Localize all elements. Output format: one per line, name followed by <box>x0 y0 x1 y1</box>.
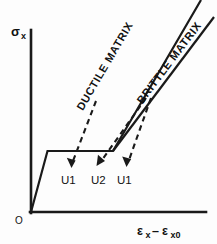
origin-label: O <box>15 215 23 226</box>
unload-arrow-brittle-right-head <box>122 157 131 167</box>
ductile-matrix-curve <box>31 0 201 212</box>
unload-label-u1-ductile: U1 <box>61 174 76 186</box>
figure-canvas: DUCTILE MATRIX BRITTLE MATRIX σ x ε x – … <box>0 0 217 244</box>
x-axis-label-subscript-1: x <box>146 230 151 240</box>
unload-labels-group: U1 U2 U1 <box>61 174 132 186</box>
ductile-matrix-label: DUCTILE MATRIX <box>74 20 135 113</box>
brittle-matrix-label-group: BRITTLE MATRIX <box>134 19 203 106</box>
y-axis-label-subscript: x <box>21 31 26 41</box>
unload-label-u1-brittle: U1 <box>117 174 132 186</box>
ductile-matrix-label-group: DUCTILE MATRIX <box>74 20 135 113</box>
ductile-matrix-path <box>31 0 201 212</box>
unload-arrow-brittle-left <box>97 98 147 166</box>
x-axis-label-subscript-2: x0 <box>171 230 181 240</box>
x-axis-label-epsilon-1: ε <box>137 224 143 238</box>
y-axis-label-symbol: σ <box>11 24 20 39</box>
x-axis-label-epsilon-2: ε <box>162 224 168 238</box>
stress-strain-figure: DUCTILE MATRIX BRITTLE MATRIX σ x ε x – … <box>0 0 217 244</box>
unload-label-u2: U2 <box>91 174 106 186</box>
x-axis-label-group: ε x – ε x0 <box>137 224 181 240</box>
brittle-matrix-label: BRITTLE MATRIX <box>134 19 203 106</box>
y-axis-label-group: σ x <box>11 24 26 41</box>
x-axis-label-minus: – <box>152 224 159 238</box>
